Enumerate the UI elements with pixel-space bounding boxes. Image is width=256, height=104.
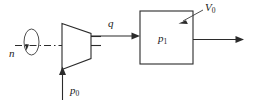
vessel-volume-leader [179, 10, 204, 24]
schematic-canvas: p0 q p1 V0 n [0, 0, 256, 104]
compressor-symbol [62, 24, 101, 70]
engineering-schematic-figure: p0 q p1 V0 n [0, 0, 256, 104]
rotation-arrow-icon [24, 29, 39, 55]
outlet-flow-arrow [193, 36, 244, 43]
inlet-flow-arrow [59, 67, 66, 101]
vessel-volume-label: V0 [205, 1, 216, 15]
inlet-pressure-label: p0 [69, 84, 80, 98]
flow-rate-label: q [108, 17, 114, 29]
vessel-pressure-label: p1 [157, 32, 168, 46]
delivery-flow-arrow [91, 32, 140, 39]
shaft-speed-label: n [9, 47, 15, 59]
